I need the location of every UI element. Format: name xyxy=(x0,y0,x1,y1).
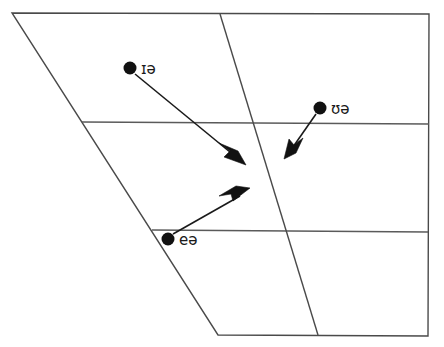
diphthong-near-arrow-head xyxy=(219,143,246,165)
diphthong-near-dot xyxy=(124,62,137,75)
diphthong-square-dot xyxy=(162,233,175,246)
close-mid-line xyxy=(82,122,429,124)
central-divider-line xyxy=(220,14,318,335)
diphthong-cure-arrow-shaft xyxy=(293,114,316,147)
vowel-quadrilateral-outline xyxy=(12,13,429,336)
diphthong-cure-arrow-head xyxy=(284,138,303,159)
diphthong-near-label: ɪə xyxy=(141,60,156,78)
diphthong-square-arrow-head xyxy=(219,186,250,201)
diphthong-cure-dot xyxy=(314,102,327,115)
diphthong-cure: ʊə xyxy=(284,100,350,159)
diphthong-square: eə xyxy=(162,186,251,249)
vowel-diagram-figure: ɪə ʊə eə xyxy=(0,0,444,347)
diphthong-square-label: eə xyxy=(179,231,197,249)
diphthong-near: ɪə xyxy=(124,60,247,165)
diphthong-square-arrow-shaft xyxy=(173,196,240,234)
diphthong-cure-label: ʊə xyxy=(331,100,350,118)
vowel-chart-canvas: ɪə ʊə eə xyxy=(0,0,444,347)
